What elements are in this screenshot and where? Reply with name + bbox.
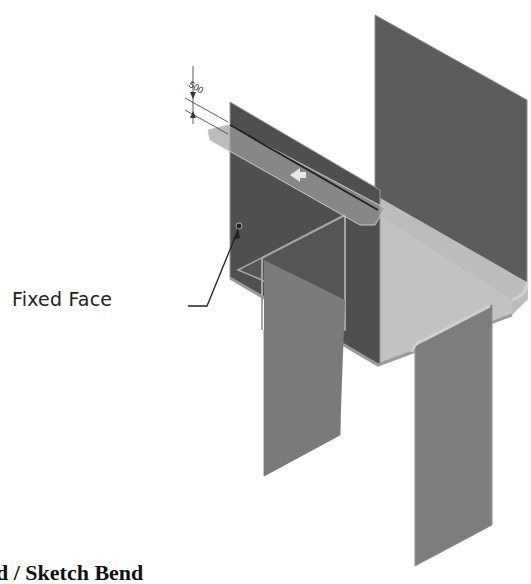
dimension-arrow-top bbox=[190, 92, 196, 99]
dimension-extension-top bbox=[185, 98, 228, 122]
fixed-face-marker bbox=[236, 223, 242, 229]
dimension-arrow-bottom bbox=[190, 111, 196, 118]
lower-right-flange bbox=[415, 305, 492, 566]
dimension-extension-bottom bbox=[185, 110, 228, 134]
fixed-face-label: Fixed Face bbox=[12, 288, 112, 310]
figure-caption: d / Sketch Bend bbox=[0, 560, 143, 584]
